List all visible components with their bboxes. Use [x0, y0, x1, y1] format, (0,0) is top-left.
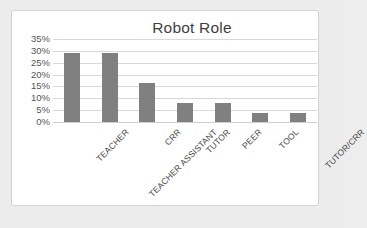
y-axis-tick-label: 30%	[12, 46, 50, 56]
bar	[290, 113, 306, 122]
chart-panel: Robot Role 0%5%10%15%20%25%30%35% TEACHE…	[11, 10, 319, 206]
bar-slot	[204, 39, 242, 122]
y-axis-tick-label: 15%	[12, 81, 50, 91]
x-axis-tick-label: PEER	[240, 127, 264, 151]
bar-slot	[279, 39, 317, 122]
x-axis-tick-label: TOOL	[277, 127, 301, 151]
y-axis-tick-labels: 0%5%10%15%20%25%30%35%	[12, 39, 50, 122]
bar-series	[53, 39, 317, 122]
x-axis-tick-label: TUTOR/CRR	[323, 127, 366, 170]
bar-slot	[128, 39, 166, 122]
y-axis-tick-label: 25%	[12, 58, 50, 68]
x-axis-tick-label: TEACHER ASSISTANT	[146, 127, 218, 199]
y-axis-tick-label: 5%	[12, 105, 50, 115]
bar-slot	[242, 39, 280, 122]
y-axis-tick-label: 0%	[12, 117, 50, 127]
bar	[102, 53, 118, 122]
plot-area	[53, 39, 317, 122]
bar-slot	[166, 39, 204, 122]
x-axis-tick-label: CRR	[163, 127, 183, 147]
x-axis-tick-label: TEACHER	[94, 127, 131, 164]
y-axis-tick-label: 20%	[12, 70, 50, 80]
bar-slot	[53, 39, 91, 122]
bar-slot	[91, 39, 129, 122]
x-axis-category-labels: TEACHERTEACHER ASSISTANTCRRTUTORPEERTOOL…	[53, 123, 317, 203]
bar	[139, 83, 155, 122]
bar	[64, 53, 80, 122]
chart-title: Robot Role	[12, 19, 320, 37]
bar	[252, 113, 268, 122]
bar	[177, 103, 193, 122]
bar	[215, 103, 231, 122]
y-axis-tick-label: 35%	[12, 34, 50, 44]
y-axis-tick-label: 10%	[12, 93, 50, 103]
